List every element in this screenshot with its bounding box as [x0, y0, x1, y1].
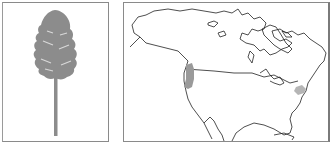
north-america-map [124, 3, 329, 141]
range-map-panel [123, 2, 330, 142]
range-west [184, 63, 194, 89]
tree-silhouette-icon [3, 3, 110, 143]
tree-panel [2, 2, 109, 142]
